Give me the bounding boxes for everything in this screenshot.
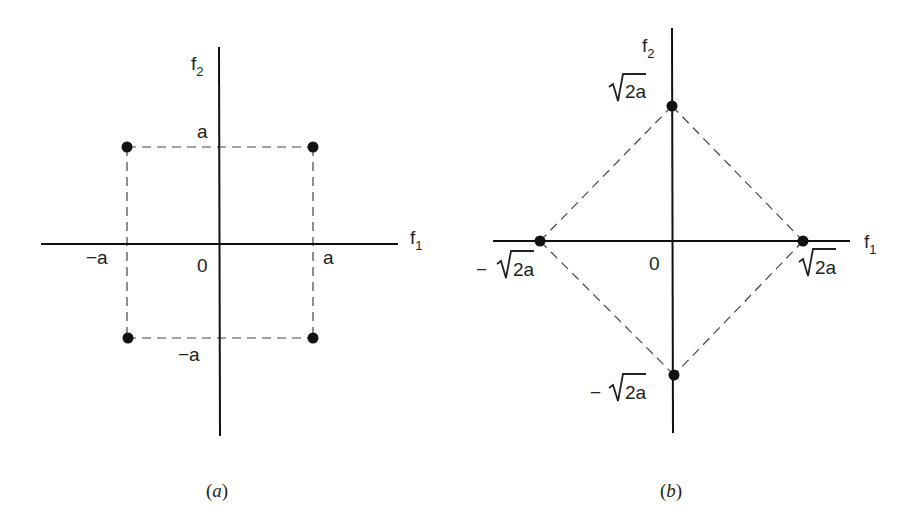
panel-a: f2 f1 a −a 0 a −a <box>41 47 423 436</box>
f2-axis-label-a: f2 <box>191 53 204 79</box>
signal-constellation-figure: f2 f1 a −a 0 a −a f2 f1 0 2a <box>0 0 920 526</box>
svg-text:−: − <box>590 382 601 403</box>
tick-neg-y-b: − 2a <box>590 374 647 403</box>
tick-pos-y-b: 2a <box>609 74 647 102</box>
svg-text:2a: 2a <box>625 81 647 102</box>
signal-point <box>535 236 546 247</box>
tick-neg-y-a: −a <box>178 344 200 365</box>
signal-point <box>798 236 809 247</box>
caption-a: (a) <box>206 480 228 502</box>
signal-point <box>308 142 319 153</box>
signal-point <box>123 333 134 344</box>
caption-b: (b) <box>660 480 682 502</box>
signal-point <box>122 142 133 153</box>
signal-point <box>669 370 680 381</box>
tick-pos-y-a: a <box>197 121 208 142</box>
signal-point <box>667 101 678 112</box>
f2-axis-a <box>219 47 220 436</box>
f1-axis-label-b: f1 <box>864 231 877 257</box>
tick-pos-x-a: a <box>323 247 334 268</box>
svg-text:−: − <box>476 259 487 280</box>
tick-neg-x-a: −a <box>86 247 108 268</box>
panel-b: f2 f1 0 2a − 2a 2a − 2a <box>476 28 877 433</box>
f2-axis-label-b: f2 <box>642 35 655 61</box>
origin-label-a: 0 <box>197 255 208 276</box>
tick-pos-x-b: 2a <box>799 249 837 278</box>
f1-axis-label-a: f1 <box>410 227 423 253</box>
svg-text:2a: 2a <box>513 259 535 280</box>
tick-neg-x-b: − 2a <box>476 251 535 280</box>
svg-text:2a: 2a <box>625 382 647 403</box>
signal-point <box>308 333 319 344</box>
origin-label-b: 0 <box>649 253 660 274</box>
svg-text:2a: 2a <box>815 257 837 278</box>
